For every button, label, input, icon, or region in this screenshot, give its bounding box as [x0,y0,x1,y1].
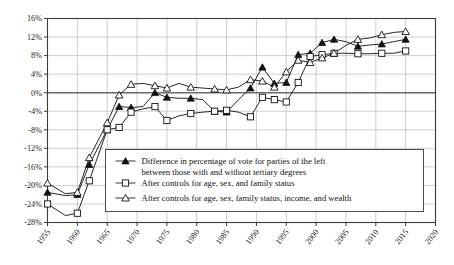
y-tick-label: 0% [31,89,42,98]
y-axis-tick-labels: 16%12%8%4%0%-4%-8%-12%-16%-20%-24%-28% [24,14,42,227]
marker-open-triangle [402,28,410,35]
marker-open-square [259,94,265,100]
marker-open-square [355,51,361,57]
legend-label-0: Difference in percentage of vote for par… [142,156,326,166]
marker-open-square [86,178,92,184]
x-tick-label: 1995 [274,228,291,246]
y-tick-label: -12% [24,144,42,153]
x-tick-label: 2000 [304,228,321,246]
marker-open-square [104,127,110,133]
y-tick-label: -16% [24,163,42,172]
line-chart: 16%12%8%4%0%-4%-8%-12%-16%-20%-24%-28% 1… [0,0,454,265]
marker-open-triangle [74,189,82,196]
marker-open-square [283,99,289,105]
marker-open-square [116,124,122,130]
x-tick-label: 1970 [124,228,141,246]
y-tick-label: -4% [28,107,42,116]
x-tick-label: 2020 [423,228,440,246]
x-tick-label: 1960 [65,228,82,246]
legend-label-1: After controls for age, sex, and family … [142,178,296,188]
y-tick-label: -24% [24,200,42,209]
marker-open-square [271,97,277,103]
chart-legend: Difference in percentage of vote for par… [106,150,424,212]
x-axis-tick-labels: 1955196019651970197519801985199019952000… [35,228,440,246]
x-tick-label: 1990 [244,228,261,246]
marker-open-square [188,110,194,116]
marker-open-square [152,103,158,109]
y-tick-label: -8% [28,126,42,135]
marker-open-square [74,210,80,216]
marker-filled-triangle [259,64,266,70]
legend-label-2: After controls for age, sex, family stat… [142,193,352,203]
marker-open-square [223,107,229,113]
marker-open-square [247,114,253,120]
y-tick-label: 8% [31,51,42,60]
x-tick-label: 1965 [95,228,112,246]
x-tick-label: 2005 [333,228,350,246]
y-tick-label: 16% [27,14,42,23]
marker-open-triangle [44,179,52,186]
marker-open-triangle [247,76,255,83]
marker-open-square [44,201,50,207]
x-tick-label: 2015 [393,228,410,246]
marker-open-square [295,79,301,85]
marker-filled-triangle [247,85,254,91]
marker-open-square [122,180,128,186]
x-tick-label: 2010 [363,228,380,246]
y-tick-label: -28% [24,218,42,227]
marker-open-triangle [103,119,111,126]
marker-open-square [164,117,170,123]
marker-open-square [379,50,385,56]
chart-container: 16%12%8%4%0%-4%-8%-12%-16%-20%-24%-28% 1… [0,0,454,265]
marker-filled-triangle [44,189,51,195]
x-tick-label: 1980 [184,228,201,246]
x-tick-label: 1985 [214,228,231,246]
marker-open-square [212,108,218,114]
marker-open-triangle [187,84,195,91]
x-tick-label: 1955 [35,228,52,246]
y-tick-label: -20% [24,181,42,190]
marker-open-square [403,48,409,54]
marker-open-square [128,109,134,115]
x-tick-label: 1975 [154,228,171,246]
legend-label-0-line2: between those with and without tertiary … [142,167,307,177]
y-tick-label: 4% [31,70,42,79]
marker-open-triangle [85,154,93,161]
y-tick-label: 12% [27,33,42,42]
